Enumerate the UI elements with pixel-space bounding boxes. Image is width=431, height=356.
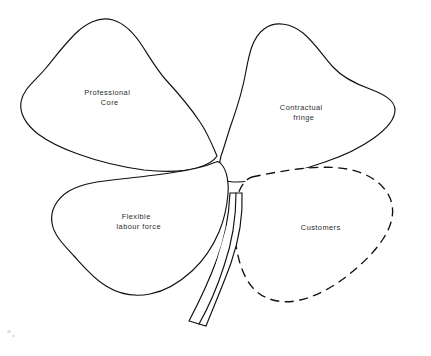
label-contractual-fringe-line2: fringe: [293, 113, 314, 122]
label-professional-core-line1: Professional: [84, 88, 130, 97]
shamrock-diagram: Professional Core Contractual fringe Fle…: [0, 0, 431, 356]
label-flexible-labour-force-line1: Flexible: [122, 212, 151, 221]
label-flexible-labour-force: Flexible labour force: [117, 212, 174, 231]
label-customers-line1: Customers: [301, 223, 341, 232]
label-flexible-labour-force-line2: labour force: [117, 222, 161, 231]
label-contractual-fringe-line1: Contractual: [280, 103, 323, 112]
label-professional-core-line2: Core: [101, 98, 119, 107]
label-customers: Customers: [301, 223, 353, 232]
shamrock-figure: Professional Core Contractual fringe Fle…: [0, 0, 431, 356]
leaf-customers-outline: [234, 167, 392, 301]
